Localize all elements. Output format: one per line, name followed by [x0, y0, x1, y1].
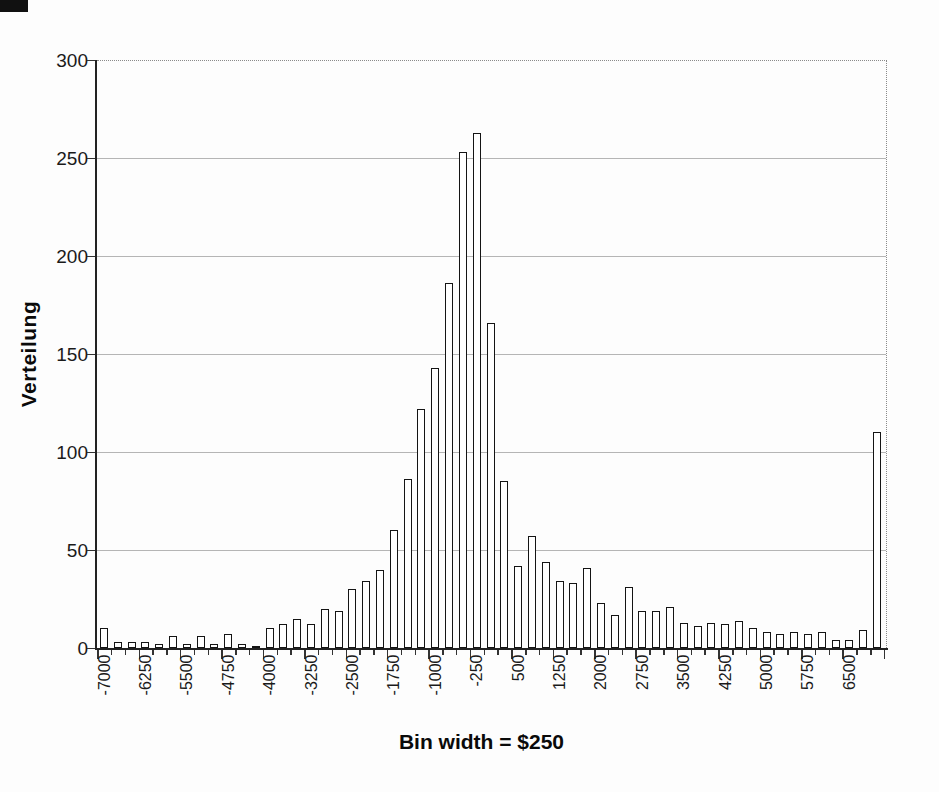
y-tick-mark-200: [87, 256, 95, 258]
bar-bin-4500: [735, 621, 743, 648]
bar-bin--250: [473, 133, 481, 648]
x-tick-label-3500: 3500: [675, 655, 692, 725]
x-tick-minor: [539, 650, 541, 655]
y-tick-label-100: 100: [36, 443, 88, 462]
x-tick-label--7000: -7000: [95, 655, 112, 725]
bar-bin-4000: [707, 623, 715, 648]
bar-bin-2250: [611, 615, 619, 648]
bar-bin-250: [500, 481, 508, 648]
y-tick-label-50: 50: [36, 541, 88, 560]
x-tick-minor: [456, 650, 458, 655]
x-tick-minor: [373, 650, 375, 655]
x-tick-label-2750: 2750: [633, 655, 650, 725]
bar-bin-6250: [832, 640, 840, 648]
x-tick-label--5500: -5500: [178, 655, 195, 725]
y-tick-label-0: 0: [36, 639, 88, 658]
bar-bin--2000: [376, 570, 384, 648]
x-tick-minor: [208, 650, 210, 655]
bar-bin--2750: [335, 611, 343, 648]
x-tick-label-6500: 6500: [840, 655, 857, 725]
bar-bin-6500: [845, 640, 853, 648]
bar-bin-2750: [638, 611, 646, 648]
x-tick-minor: [497, 650, 499, 655]
bar-bin--500: [459, 152, 467, 648]
bar-bin-1750: [583, 568, 591, 648]
bar-bin-3500: [680, 623, 688, 648]
bar-bin-3250: [666, 607, 674, 648]
bar-bin--3250: [307, 624, 315, 648]
bar-bin--3500: [293, 619, 301, 648]
x-tick-minor: [622, 650, 624, 655]
bar-bin--1000: [431, 368, 439, 648]
x-tick-label-5000: 5000: [758, 655, 775, 725]
bar-bin--1250: [417, 409, 425, 648]
y-tick-label-300: 300: [36, 51, 88, 70]
bar-bin-1500: [569, 583, 577, 648]
x-tick-minor: [249, 650, 251, 655]
bar-bin-5250: [776, 634, 784, 648]
bar-bin-3750: [694, 626, 702, 648]
x-tick-label-500: 500: [509, 655, 526, 725]
x-tick-label--4000: -4000: [261, 655, 278, 725]
bar-bin--2500: [348, 589, 356, 648]
bar-bin--1750: [390, 530, 398, 648]
x-tick-minor: [870, 650, 872, 655]
bar-bin--5750: [169, 636, 177, 648]
y-tick-label-250: 250: [36, 149, 88, 168]
bar-bin--4000: [266, 628, 274, 648]
x-axis-title: Bin width = $250: [282, 730, 682, 754]
y-tick-mark-100: [87, 452, 95, 454]
bar-bin--3000: [321, 609, 329, 648]
y-tick-label-150: 150: [36, 345, 88, 364]
x-tick-label-5750: 5750: [799, 655, 816, 725]
bar-bin-1000: [542, 562, 550, 648]
bar-bin-0: [487, 323, 495, 648]
x-tick-label--1000: -1000: [426, 655, 443, 725]
y-tick-mark-50: [87, 550, 95, 552]
bar-bin--750: [445, 283, 453, 648]
y-tick-mark-150: [87, 354, 95, 356]
bar-bin-5750: [804, 634, 812, 648]
x-tick-minor: [580, 650, 582, 655]
bar-bin--3750: [279, 624, 287, 648]
x-tick-label-1250: 1250: [551, 655, 568, 725]
y-axis-line: [95, 60, 97, 650]
y-tick-label-200: 200: [36, 247, 88, 266]
x-tick-label--250: -250: [468, 655, 485, 725]
gridline-250: [97, 158, 886, 159]
bar-bin--7000: [100, 628, 108, 648]
bar-bin-2500: [625, 587, 633, 648]
bar-bin-5500: [790, 632, 798, 648]
x-tick-minor: [415, 650, 417, 655]
bar-bin-6000: [818, 632, 826, 648]
bar-bin-750: [528, 536, 536, 648]
x-tick-label--6250: -6250: [136, 655, 153, 725]
x-tick-minor: [663, 650, 665, 655]
bar-bin-500: [514, 566, 522, 648]
gridline-200: [97, 256, 886, 257]
plot-border-top: [97, 60, 887, 61]
bar-bin--4750: [224, 634, 232, 648]
x-tick-minor: [787, 650, 789, 655]
x-tick-label--4750: -4750: [219, 655, 236, 725]
x-tick-minor: [290, 650, 292, 655]
x-tick-label--1750: -1750: [385, 655, 402, 725]
bar-bin--5250: [197, 636, 205, 648]
x-tick-label-2000: 2000: [592, 655, 609, 725]
histogram-figure: Verteilung Bin width = $250 050100150200…: [0, 0, 939, 792]
bar-bin-7000: [873, 432, 881, 648]
bar-bin-6750: [859, 630, 867, 648]
bar-bin--1500: [404, 479, 412, 648]
x-tick-label--3250: -3250: [302, 655, 319, 725]
bar-bin-3000: [652, 611, 660, 648]
bar-bin--2250: [362, 581, 370, 648]
bar-bin-1250: [556, 581, 564, 648]
x-tick-minor: [746, 650, 748, 655]
y-tick-mark-250: [87, 158, 95, 160]
x-tick-label--2500: -2500: [343, 655, 360, 725]
y-tick-mark-300: [87, 60, 95, 62]
x-tick-minor: [829, 650, 831, 655]
scan-edge-artifact: [0, 0, 28, 12]
x-tick-minor: [125, 650, 127, 655]
y-tick-mark-0: [87, 648, 95, 650]
